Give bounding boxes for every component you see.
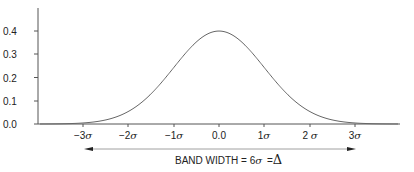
x-tick-label-minus1sigma: −1σ	[165, 130, 184, 141]
x-tick-label-1sigma: 1σ	[258, 130, 272, 141]
y-ticks	[34, 31, 38, 124]
band-width-arrow	[84, 147, 356, 151]
y-tick-label: 0.4	[3, 26, 17, 37]
y-tick-labels: 0.0 0.1 0.2 0.3 0.4	[3, 26, 17, 130]
x-tick-label-minus2sigma: −2σ	[119, 130, 138, 141]
y-tick-label: 0.2	[3, 73, 17, 84]
y-tick-label: 0.3	[3, 49, 17, 60]
x-tick-label-3sigma: 3σ	[349, 130, 363, 141]
x-tick-label-2sigma: 2 σ	[302, 130, 318, 141]
gaussian-curve	[40, 31, 398, 124]
y-tick-label: 0.0	[3, 119, 17, 130]
y-tick-label: 0.1	[3, 96, 17, 107]
arrow-left-head	[84, 147, 93, 151]
x-tick-labels: −3σ −2σ −1σ 0.0 1σ 2 σ 3σ	[74, 130, 362, 141]
band-width-label: BAND WIDTH = 6σ =Δ	[175, 152, 282, 167]
arrow-right-head	[347, 147, 356, 151]
x-tick-label-zero: 0.0	[212, 130, 226, 141]
x-tick-label-minus3sigma: −3σ	[74, 130, 93, 141]
normal-distribution-chart: 0.0 0.1 0.2 0.3 0.4 −3σ −2σ −1σ 0.0 1σ 2…	[0, 0, 414, 172]
